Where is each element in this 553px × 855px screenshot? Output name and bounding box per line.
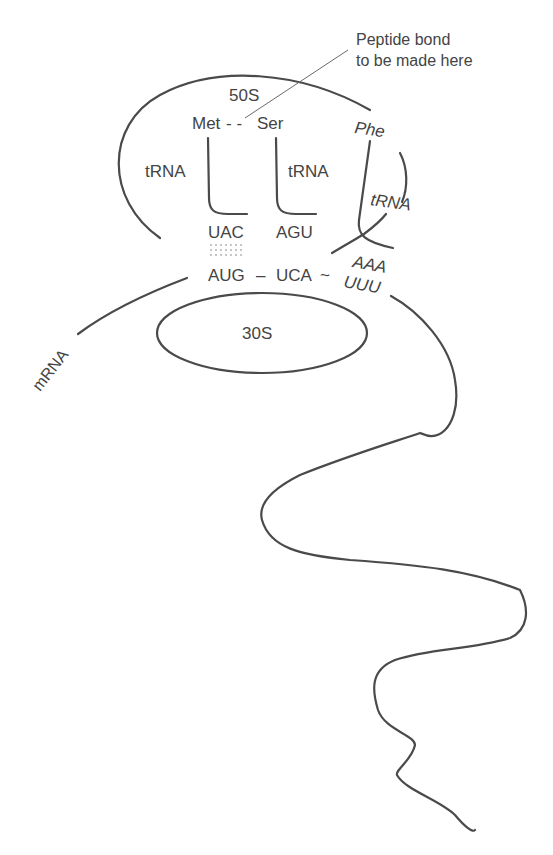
trna-3-label: tRNA xyxy=(369,190,412,214)
trna-1-stem xyxy=(208,138,247,214)
amino-acid-ser: Ser xyxy=(257,114,284,133)
trna-2-anticodon: AGU xyxy=(276,223,313,242)
mrna-separator-1: – xyxy=(256,266,266,285)
large-subunit-label: 50S xyxy=(229,86,259,105)
annotation-leader-line xyxy=(245,50,348,118)
amino-acid-phe: Phe xyxy=(353,118,386,141)
trna-1-anticodon: UAC xyxy=(208,223,244,242)
amino-acid-met: Met xyxy=(192,114,221,133)
base-pairing-dots xyxy=(210,244,242,256)
mrna-codon-1: AUG xyxy=(208,266,245,285)
mrna-codon-2: UCA xyxy=(276,266,313,285)
trna-2-label: tRNA xyxy=(288,162,329,181)
annotation-line-1: Peptide bond xyxy=(356,31,450,48)
mrna-strand-3prime xyxy=(261,296,526,831)
mrna-strand-5prime xyxy=(78,278,187,334)
ribosome-diagram: Peptide bond to be made here 50S Met - -… xyxy=(0,0,553,855)
mrna-codon-3: UUU xyxy=(342,272,382,297)
mrna-label: mRNA xyxy=(29,346,72,394)
trna-1-label: tRNA xyxy=(145,162,186,181)
small-subunit-label: 30S xyxy=(242,324,272,343)
peptide-bond-dash: - - xyxy=(226,114,242,133)
annotation-line-2: to be made here xyxy=(356,52,473,69)
mrna-separator-2: ~ xyxy=(320,266,330,285)
